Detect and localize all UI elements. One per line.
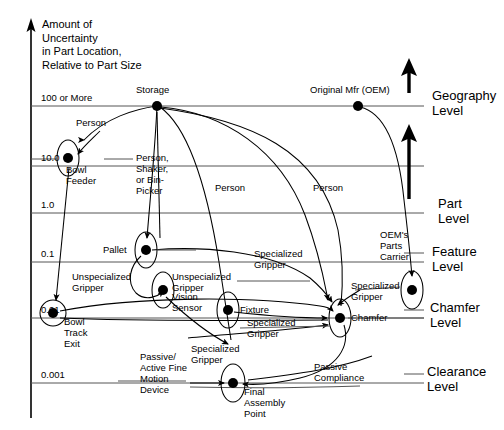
dot-oems-parts-carrier: [407, 285, 417, 295]
ytick-0-001: 0.001: [41, 369, 65, 380]
dot-chamfer: [335, 313, 345, 323]
node-label-bowl-track-exit: Bowl Track Exit: [64, 316, 87, 349]
level-chamfer: Chamfer Level: [430, 300, 480, 330]
dot-original-mfr-oem: [353, 101, 363, 111]
node-label-storage: Storage: [136, 84, 169, 95]
axis-title: Amount of Uncertainty in Part Location, …: [42, 18, 142, 72]
gridlines: [31, 106, 424, 383]
level-feature: Feature Level: [432, 244, 477, 274]
edge-label-person-right: Person: [313, 182, 343, 193]
edge-label-passive-compliance: Passive Compliance: [314, 361, 364, 383]
ytick-10: 10.0: [41, 152, 60, 163]
level-arrows: [401, 58, 417, 199]
edge-label-unspecialized-gripper-left: Unspecialized Gripper: [72, 271, 131, 293]
node-label-final-assembly-point: Final Assembly Point: [244, 386, 285, 419]
edge-label-person-mid: Person: [215, 182, 245, 193]
dot-pallet: [141, 245, 151, 255]
ytick-1: 1.0: [41, 199, 54, 210]
dot-storage: [152, 101, 162, 111]
edge-label-specialized-gripper-lower: Specialized Gripper: [191, 343, 240, 365]
node-label-vision-sensor: Vision Sensor: [172, 291, 202, 313]
edge-label-specialized-gripper-fixture: Specialized Gripper: [247, 317, 296, 339]
ytick-0-1: 0.1: [41, 248, 54, 259]
y-axis: [27, 18, 36, 418]
dot-fixture: [223, 305, 233, 315]
edge-label-person-shaker-bin-picker: Person, Shaker, or Bin- Picker: [136, 152, 169, 196]
node-label-chamfer: Chamfer: [351, 312, 387, 323]
edge-bowl-feeder-bowl-track-exit: [56, 168, 69, 300]
level-part: Part Level: [438, 196, 469, 226]
node-label-pallet: Pallet: [103, 244, 127, 255]
ytick-0-01: 0.01: [41, 304, 60, 315]
dot-bowl-feeder: [63, 153, 73, 163]
edge-label-person-bowl-feeder: Person: [76, 117, 106, 128]
edge-label-passive-active-fine-motion-device: Passive/ Active Fine Motion Device: [140, 351, 187, 395]
node-label-original-mfr-oem: Original Mfr (OEM): [310, 84, 390, 95]
dot-vision-sensor: [158, 285, 168, 295]
level-geography: Geography Level: [432, 88, 496, 118]
ytick-100-or-more: 100 or More: [41, 92, 92, 103]
diagram-root: Amount of Uncertainty in Part Location, …: [0, 0, 504, 430]
node-label-bowl-feeder: Bowl Feeder: [66, 164, 96, 186]
edge-label-oems-parts-carrier: OEM's Parts Carrier: [380, 229, 409, 262]
node-label-fixture: Fixture: [240, 304, 269, 315]
edge-label-specialized-gripper-right: Specialized Gripper: [351, 280, 400, 302]
dot-final-assembly-point: [228, 378, 238, 388]
level-clearance: Clearance Level: [427, 364, 486, 394]
edge-label-specialized-gripper-upper: Specialized Gripper: [254, 248, 303, 270]
edge-label-unspecialized-gripper-right: Unspecialized Gripper: [172, 271, 231, 293]
